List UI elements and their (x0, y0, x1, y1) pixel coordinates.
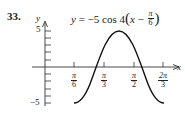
y-tick-label-neg5: −5 (30, 97, 40, 107)
x-tick-label-2pi-3: 2π 3 (158, 72, 168, 89)
y-tick-label-5: 5 (36, 24, 41, 34)
y-axis-label: y (36, 13, 40, 23)
x-axis-label: x (177, 62, 181, 72)
x-ticks (74, 62, 163, 67)
x-tick-label-pi-6: π 6 (71, 72, 77, 89)
x-tick-label-pi-3: π 3 (101, 72, 107, 89)
x-tick-label-pi-2: π 2 (131, 72, 137, 89)
chart-plot (0, 0, 185, 114)
